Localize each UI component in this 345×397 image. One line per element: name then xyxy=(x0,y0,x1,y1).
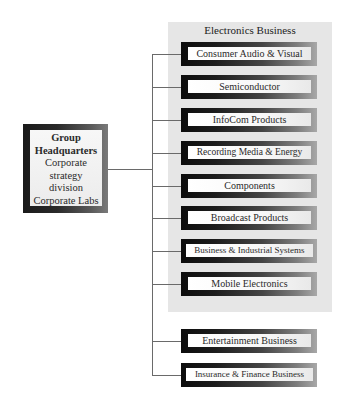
division-label: Consumer Audio & Visual xyxy=(188,47,311,60)
hq-connector-line xyxy=(108,169,152,170)
branch-connector-line xyxy=(152,284,181,285)
division-business-industrial-systems: Business & Industrial Systems xyxy=(181,239,317,263)
hq-unit-division: division xyxy=(30,182,102,195)
division-label: Components xyxy=(188,179,311,192)
division-label: Broadcast Products xyxy=(188,211,311,224)
division-mobile-electronics: Mobile Electronics xyxy=(181,272,317,296)
division-label: Business & Industrial Systems xyxy=(186,244,313,257)
electronics-business-title: Electronics Business xyxy=(168,24,332,36)
hq-unit-corporate-labs: Corporate Labs xyxy=(30,195,102,208)
business-label: Entertainment Business xyxy=(188,334,311,347)
hq-title-line1: Group xyxy=(30,132,102,145)
hq-title-line2: Headquarters xyxy=(30,145,102,158)
division-label: Mobile Electronics xyxy=(188,277,311,290)
branch-connector-line xyxy=(152,153,181,154)
branch-connector-line xyxy=(152,341,181,342)
business-label: Insurance & Finance Business xyxy=(186,368,313,381)
division-label: Recording Media & Energy xyxy=(188,146,311,159)
group-headquarters-box: Group Headquarters Corporate strategy di… xyxy=(23,124,108,213)
division-infocom-products: InfoCom Products xyxy=(181,108,317,132)
branch-connector-line xyxy=(152,54,181,55)
branch-connector-line xyxy=(152,120,181,121)
branch-connector-line xyxy=(152,375,181,376)
entertainment-business-box: Entertainment Business xyxy=(181,329,317,353)
division-semiconductor: Semiconductor xyxy=(181,75,317,99)
division-broadcast-products: Broadcast Products xyxy=(181,206,317,230)
group-headquarters-content: Group Headquarters Corporate strategy di… xyxy=(30,130,102,206)
branch-connector-line xyxy=(152,251,181,252)
division-label: InfoCom Products xyxy=(188,113,311,126)
hq-unit-strategy: strategy xyxy=(30,170,102,183)
division-recording-media-energy: Recording Media & Energy xyxy=(181,141,317,165)
division-components: Components xyxy=(181,174,317,198)
trunk-connector-line xyxy=(152,54,153,376)
branch-connector-line xyxy=(152,186,181,187)
branch-connector-line xyxy=(152,87,181,88)
branch-connector-line xyxy=(152,218,181,219)
division-consumer-audio-visual: Consumer Audio & Visual xyxy=(181,42,317,66)
hq-unit-corporate: Corporate xyxy=(30,157,102,170)
insurance-finance-business-box: Insurance & Finance Business xyxy=(181,363,317,387)
division-label: Semiconductor xyxy=(188,80,311,93)
